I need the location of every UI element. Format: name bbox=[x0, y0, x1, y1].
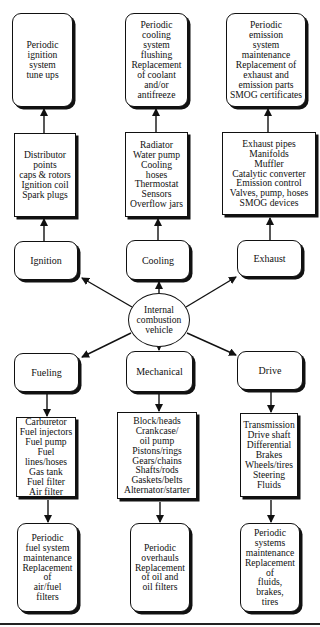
mechanical-maintenance-box: PeriodicoverhaulsReplacementof oil andoi… bbox=[130, 523, 190, 612]
text-line: Air filter bbox=[29, 487, 63, 497]
vehicle-systems-diagram: Periodicignitionsystemtune ups Periodicc… bbox=[0, 0, 320, 627]
cooling-components-box: RadiatorWater pumpCoolinghosesThermostat… bbox=[125, 132, 188, 217]
cooling-category-label: Cooling bbox=[142, 255, 174, 266]
exhaust-category-box: Exhaust bbox=[237, 240, 302, 277]
hub-ellipse: Internalcombustionvehicle bbox=[128, 293, 190, 347]
text-line: antifreeze bbox=[138, 90, 176, 100]
mechanical-category-box: Mechanical bbox=[126, 351, 193, 392]
text-line: Fluids bbox=[257, 480, 281, 490]
drive-components-box: TransmissionDrive shaftDifferentialBrake… bbox=[240, 413, 298, 497]
mechanical-category-label: Mechanical bbox=[136, 366, 183, 377]
exhaust-components-box: Exhaust pipesManifoldsMufflerCatalytic c… bbox=[222, 132, 316, 215]
exhaust-maintenance-box: PeriodicemissionsystemmaintenanceReplace… bbox=[226, 13, 306, 107]
arrow-hub-to-fueling bbox=[82, 333, 131, 357]
mechanical-components-box: Block/headsCrankcase/oil pumpPistons/rin… bbox=[117, 412, 197, 499]
arrow-hub-to-ignition bbox=[82, 278, 132, 307]
arrow-hub-to-drive bbox=[187, 333, 236, 355]
ignition-maintenance-box: Periodicignitionsystemtune ups bbox=[12, 13, 73, 107]
drive-category-box: Drive bbox=[237, 351, 303, 390]
ignition-category-label: Ignition bbox=[30, 255, 62, 266]
text-line: SMOG devices bbox=[240, 198, 299, 208]
ignition-components-box: Distributorpointscaps & rotorsIgnition c… bbox=[14, 133, 76, 217]
drive-maintenance-box: PeriodicsystemsmaintenanceReplacementoff… bbox=[240, 523, 300, 612]
text-line: tune ups bbox=[26, 70, 58, 80]
text-line: Spark plugs bbox=[22, 190, 68, 200]
text-line: Pistons/rings bbox=[132, 446, 182, 456]
ignition-category-box: Ignition bbox=[14, 241, 78, 280]
fueling-category-label: Fueling bbox=[31, 367, 62, 378]
fueling-components-box: CarburetorFuel injectorsFuel pumpFuellin… bbox=[16, 417, 76, 497]
drive-category-label: Drive bbox=[259, 365, 282, 376]
fueling-category-box: Fueling bbox=[14, 353, 79, 392]
bottom-rule bbox=[0, 623, 320, 625]
text-line: oil filters bbox=[143, 582, 178, 592]
text-line: filters bbox=[36, 592, 58, 602]
text-line: SMOG certificates bbox=[230, 90, 302, 100]
cooling-category-box: Cooling bbox=[126, 240, 190, 280]
text-line: Replacement bbox=[245, 558, 295, 568]
fueling-maintenance-box: Periodicfuel systemmaintenanceReplacemen… bbox=[17, 523, 78, 612]
text-line: tires bbox=[262, 597, 279, 607]
text-line: Alternator/starter bbox=[124, 485, 190, 495]
cooling-maintenance-box: PeriodiccoolingsystemflushingReplacement… bbox=[125, 13, 188, 107]
arrow-hub-to-exhaust bbox=[186, 277, 236, 307]
text-line: Overflow jars bbox=[130, 199, 183, 209]
text-line: vehicle bbox=[145, 325, 173, 335]
exhaust-category-label: Exhaust bbox=[253, 253, 285, 264]
